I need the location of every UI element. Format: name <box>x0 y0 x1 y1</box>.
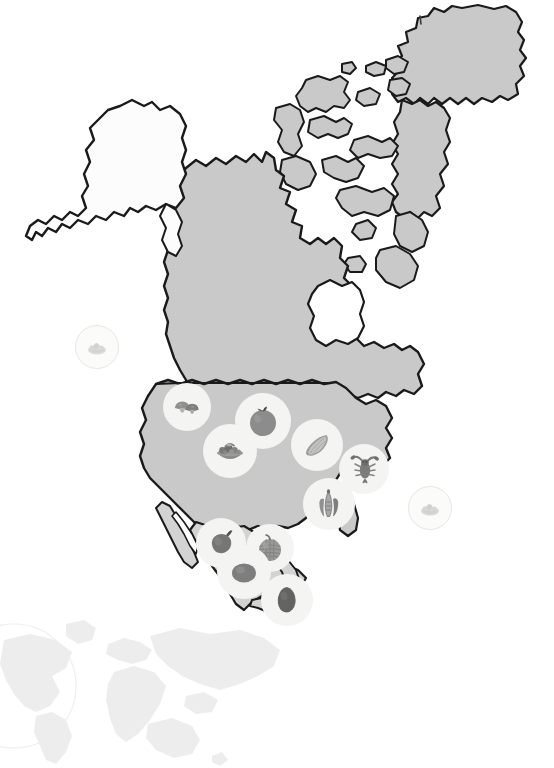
marker-yucatan-avocado[interactable] <box>261 574 313 626</box>
region-arctic-island-11 <box>322 156 364 182</box>
region-arctic-island-10 <box>280 156 316 190</box>
avocado-icon <box>270 583 304 617</box>
shrimp-icon <box>313 488 345 520</box>
region-arctic-island-6 <box>356 88 380 106</box>
mushrooms-icon <box>172 392 202 422</box>
marker-atlantic-offshore[interactable] <box>408 486 452 530</box>
map-canvas <box>0 0 554 768</box>
region-arctic-island-7 <box>308 116 352 138</box>
marker-pacific-offshore[interactable] <box>75 325 119 369</box>
salad-bowl-icon <box>85 335 109 359</box>
region-arctic-island-14 <box>352 220 376 240</box>
region-arctic-island-3 <box>366 62 386 76</box>
marker-southeast-shrimp[interactable] <box>303 478 355 530</box>
region-greenland-south <box>392 100 450 218</box>
corn-icon <box>301 429 333 461</box>
world-map-watermark <box>0 620 280 766</box>
salad-bowl-icon <box>418 496 442 520</box>
region-arctic-island-1 <box>296 76 350 112</box>
hudson-bay <box>308 280 364 346</box>
salad-bowl-icon <box>213 434 247 468</box>
region-arctic-island-12 <box>336 186 394 216</box>
lobster-icon <box>348 453 380 485</box>
region-arctic-island-8 <box>350 136 398 158</box>
greenland-tick-mark <box>420 16 421 24</box>
marker-southwest-salad[interactable] <box>203 424 257 478</box>
region-arctic-island-5 <box>388 78 410 96</box>
apple-icon <box>246 404 280 438</box>
region-arctic-island-9 <box>274 104 304 156</box>
region-arctic-island-2 <box>342 62 356 74</box>
marker-pacific-northwest[interactable] <box>163 383 211 431</box>
marker-great-lakes-corn[interactable] <box>291 419 343 471</box>
avocado-icon <box>226 554 262 590</box>
region-greenland <box>392 5 526 104</box>
region-arctic-island-13 <box>394 212 428 252</box>
north-america-map <box>0 0 554 768</box>
